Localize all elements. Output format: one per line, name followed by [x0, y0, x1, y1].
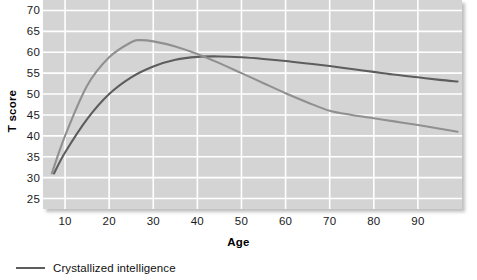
y-axis-tick-label: 25 [4, 193, 40, 204]
y-axis-tick-label: 70 [4, 5, 40, 16]
plot-svg [43, 0, 462, 209]
y-axis-tick-label: 40 [4, 130, 40, 141]
y-axis-tick-label: 60 [4, 47, 40, 58]
y-axis-tick-label: 45 [4, 109, 40, 120]
x-axis-tick-label: 50 [235, 215, 248, 227]
x-axis-tick-label: 60 [279, 215, 292, 227]
series-line-1 [52, 40, 458, 173]
y-axis-tick-label: 55 [4, 68, 40, 79]
legend-line-icon [16, 267, 45, 269]
x-axis-tick-label: 40 [191, 215, 204, 227]
y-axis-tick-label: 35 [4, 151, 40, 162]
chart-figure: T score 25303540455055606570 10203040506… [0, 0, 477, 280]
plot-shell [43, 0, 467, 214]
plot-area [43, 0, 462, 209]
x-axis-tick-label: 10 [58, 215, 71, 227]
y-axis-tick-label: 30 [4, 172, 40, 183]
x-axis-tick-label: 70 [323, 215, 336, 227]
x-axis-tick-label: 20 [103, 215, 116, 227]
chart-legend: Crystallized intelligence [16, 262, 176, 274]
x-axis-tick-labels: 102030405060708090 [43, 215, 467, 235]
y-axis-tick-labels: 25303540455055606570 [0, 0, 40, 214]
legend-label: Crystallized intelligence [53, 262, 176, 274]
x-axis-title: Age [0, 236, 477, 248]
y-axis-tick-label: 50 [4, 89, 40, 100]
y-axis-tick-label: 65 [4, 26, 40, 37]
x-axis-tick-label: 80 [367, 215, 380, 227]
x-axis-tick-label: 30 [147, 215, 160, 227]
x-axis-tick-label: 90 [411, 215, 424, 227]
